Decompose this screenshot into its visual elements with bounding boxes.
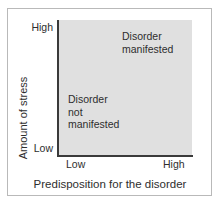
x-axis-low-label: Low [66, 158, 85, 170]
x-axis-high-label: High [163, 158, 185, 170]
x-axis-line [57, 155, 193, 157]
region-label-disorder-manifested: Disorder manifested [122, 30, 173, 55]
y-axis-title: Amount of stress [15, 51, 31, 186]
x-axis-title: Predisposition for the disorder [10, 177, 210, 191]
region-label-disorder-not-manifested: Disorder not manifested [68, 93, 119, 131]
diathesis-stress-figure: High Low Low High Amount of stress Predi… [0, 0, 220, 204]
y-axis-low-label: Low [34, 142, 53, 154]
y-axis-line [57, 20, 59, 157]
y-axis-high-label: High [31, 21, 53, 33]
